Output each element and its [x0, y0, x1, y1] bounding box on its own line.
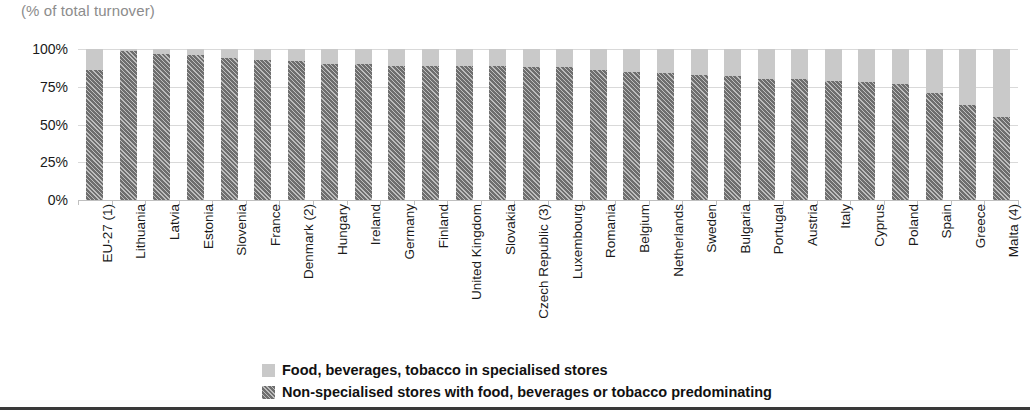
- bar-segment-non-specialised: [456, 66, 473, 200]
- x-axis-label: Malta (4): [1006, 204, 1021, 257]
- bar-segment-non-specialised: [187, 55, 204, 200]
- stacked-bar: [892, 49, 909, 200]
- x-axis-labels: EU-27 (1)LithuaniaLatviaEstoniaSloveniaF…: [78, 204, 1018, 349]
- x-axis-label: Slovenia: [234, 204, 249, 256]
- bar-segment-specialised: [422, 49, 439, 66]
- x-axis-label: Bulgaria: [738, 204, 753, 254]
- bar-segment-specialised: [758, 49, 775, 79]
- bar-segment-specialised: [892, 49, 909, 84]
- stacked-bar: [556, 49, 573, 200]
- bar-column: [388, 49, 405, 200]
- chart-legend: Food, beverages, tobacco in specialised …: [262, 359, 1022, 403]
- bar-column: [590, 49, 607, 200]
- x-axis-label: Netherlands: [671, 204, 686, 277]
- stacked-bar: [355, 49, 372, 200]
- y-axis-tick-label: 50%: [0, 117, 68, 133]
- stacked-bar: [120, 49, 137, 200]
- stacked-bar: [825, 49, 842, 200]
- y-axis-tick-label: 100%: [0, 41, 68, 57]
- bar-segment-non-specialised: [959, 105, 976, 200]
- bar-segment-specialised: [388, 49, 405, 66]
- stacked-bar: [86, 49, 103, 200]
- bar-column: [120, 49, 137, 200]
- bar-segment-specialised: [221, 49, 238, 58]
- stacked-bar: [724, 49, 741, 200]
- bar-column: [758, 49, 775, 200]
- bar-column: [153, 49, 170, 200]
- bar-segment-non-specialised: [892, 84, 909, 200]
- bar-segment-specialised: [288, 49, 305, 61]
- bar-segment-non-specialised: [388, 66, 405, 200]
- bar-column: [959, 49, 976, 200]
- bar-segment-specialised: [691, 49, 708, 75]
- bar-segment-non-specialised: [926, 93, 943, 200]
- x-axis-label: France: [268, 204, 283, 246]
- bar-segment-specialised: [724, 49, 741, 76]
- bar-column: [86, 49, 103, 200]
- stacked-bar: [254, 49, 271, 200]
- bar-segment-non-specialised: [724, 76, 741, 200]
- stacked-bar: [422, 49, 439, 200]
- bar-segment-specialised: [791, 49, 808, 79]
- bar-segment-specialised: [926, 49, 943, 93]
- bar-segment-non-specialised: [993, 117, 1010, 200]
- stacked-bar: [456, 49, 473, 200]
- legend-swatch-specialised-icon: [262, 364, 275, 377]
- bar-segment-specialised: [321, 49, 338, 64]
- bar-segment-specialised: [825, 49, 842, 81]
- x-axis-label: EU-27 (1): [100, 204, 115, 263]
- x-axis-label: Hungary: [335, 204, 350, 255]
- bar-segment-non-specialised: [825, 81, 842, 200]
- bar-column: [422, 49, 439, 200]
- bar-column: [355, 49, 372, 200]
- bar-segment-non-specialised: [321, 64, 338, 200]
- bar-column: [221, 49, 238, 200]
- bar-column: [489, 49, 506, 200]
- bar-segment-specialised: [858, 49, 875, 82]
- bar-segment-non-specialised: [153, 54, 170, 200]
- legend-label: Food, beverages, tobacco in specialised …: [282, 362, 608, 378]
- bar-segment-non-specialised: [120, 51, 137, 200]
- bar-segment-non-specialised: [221, 58, 238, 200]
- bar-column: [623, 49, 640, 200]
- bar-column: [858, 49, 875, 200]
- gridline: [78, 162, 1018, 163]
- bar-segment-specialised: [523, 49, 540, 67]
- y-axis-tick-label: 75%: [0, 79, 68, 95]
- bar-segment-non-specialised: [86, 70, 103, 200]
- x-axis-label: Romania: [603, 204, 618, 258]
- x-axis-label: Germany: [402, 204, 417, 260]
- stacked-bar: [388, 49, 405, 200]
- bar-segment-specialised: [657, 49, 674, 73]
- bar-segment-specialised: [456, 49, 473, 66]
- bar-segment-non-specialised: [355, 64, 372, 200]
- stacked-bar: [489, 49, 506, 200]
- plot-area: [78, 49, 1018, 200]
- x-axis-label: Italy: [838, 204, 853, 229]
- x-axis-label: Estonia: [201, 204, 216, 249]
- legend-item: Food, beverages, tobacco in specialised …: [262, 359, 1022, 381]
- bar-segment-non-specialised: [858, 82, 875, 200]
- x-axis-label: Latvia: [167, 204, 182, 240]
- bar-segment-specialised: [959, 49, 976, 105]
- x-axis-label: Austria: [805, 204, 820, 246]
- x-axis-label: Spain: [939, 204, 954, 239]
- bar-column: [825, 49, 842, 200]
- bar-column: [926, 49, 943, 200]
- bar-segment-specialised: [590, 49, 607, 70]
- x-axis-label: Greece: [973, 204, 988, 248]
- chart-page: (% of total turnover) 0%25%50%75%100% EU…: [0, 0, 1030, 410]
- bar-column: [523, 49, 540, 200]
- bar-segment-non-specialised: [791, 79, 808, 200]
- bar-column: [691, 49, 708, 200]
- bar-column: [321, 49, 338, 200]
- gridline: [78, 125, 1018, 126]
- legend-item: Non-specialised stores with food, bevera…: [262, 381, 1022, 403]
- bar-segment-specialised: [489, 49, 506, 66]
- bar-segment-non-specialised: [556, 67, 573, 200]
- y-axis-tick-label: 25%: [0, 154, 68, 170]
- bar-column: [892, 49, 909, 200]
- bar-column: [187, 49, 204, 200]
- legend-label: Non-specialised stores with food, bevera…: [282, 384, 772, 400]
- bar-segment-specialised: [993, 49, 1010, 117]
